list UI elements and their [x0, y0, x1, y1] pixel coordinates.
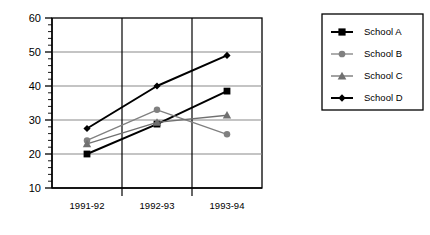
- x-tick-label-1993-94: 1993-94: [210, 200, 245, 211]
- line-chart-figure: 60 50 40 30 20 10 1991-92 1992-93 1993-9…: [0, 0, 430, 235]
- legend-label: School B: [364, 48, 402, 59]
- legend-marker: [339, 51, 346, 58]
- data-point: [224, 131, 231, 138]
- x-tick-label-1992-93: 1992-93: [140, 200, 175, 211]
- legend-label: School A: [364, 26, 402, 37]
- legend: School ASchool BSchool CSchool D: [322, 14, 423, 110]
- data-point: [224, 88, 231, 95]
- plot-area: [52, 18, 262, 188]
- y-tick-label-20: 20: [29, 148, 41, 160]
- data-point: [154, 107, 161, 114]
- y-tick-label-60: 60: [29, 12, 41, 24]
- y-tick-label-30: 30: [29, 114, 41, 126]
- y-tick-label-50: 50: [29, 46, 41, 58]
- legend-label: School C: [364, 70, 403, 81]
- y-tick-label-10: 10: [29, 182, 41, 194]
- legend-label: School D: [364, 92, 403, 103]
- x-tick-label-1991-92: 1991-92: [70, 200, 105, 211]
- legend-marker: [338, 28, 345, 35]
- y-tick-label-40: 40: [29, 80, 41, 92]
- plot-frame: [52, 18, 262, 188]
- chart-canvas: 60 50 40 30 20 10 1991-92 1992-93 1993-9…: [0, 0, 430, 235]
- data-point: [84, 151, 91, 158]
